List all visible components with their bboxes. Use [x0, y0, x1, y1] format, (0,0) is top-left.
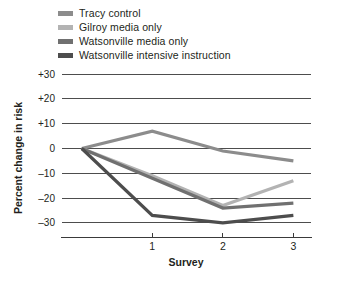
x-axis-tick-labels: 123 [149, 240, 296, 252]
data-series-lines [82, 131, 294, 223]
chart-figure: Tracy control Gilroy media only Watsonvi… [0, 0, 352, 281]
x-axis-title: Survey [168, 256, 203, 268]
y-axis-tick-label: –20 [38, 193, 55, 204]
y-axis-tick-label: –30 [38, 217, 55, 228]
data-line-tracy-control [82, 131, 294, 161]
x-axis [61, 233, 312, 238]
y-axis-tick-label: 0 [49, 143, 55, 154]
y-axis-tick-label: +10 [38, 118, 55, 129]
gridlines [62, 74, 311, 223]
x-axis-tick-label: 3 [290, 240, 296, 252]
y-axis-tick-label: +30 [38, 69, 55, 80]
x-axis-tick-label: 2 [220, 240, 226, 252]
y-axis-tick-label: +20 [38, 93, 55, 104]
y-axis-title: Percent change in risk [12, 102, 24, 214]
chart-plot-area: +30+20+100–10–20–30 123 Survey Percent c… [0, 0, 352, 281]
y-axis-tick-label: –10 [38, 168, 55, 179]
x-axis-tick-label: 1 [149, 240, 155, 252]
y-axis-tick-labels: +30+20+100–10–20–30 [38, 69, 55, 229]
